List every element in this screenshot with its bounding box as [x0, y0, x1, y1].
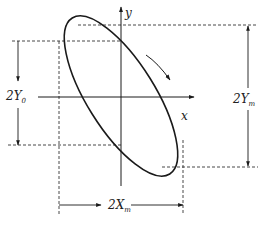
xm-label-prefix: 2X	[107, 198, 125, 212]
y0-label-sub: 0	[22, 97, 27, 105]
axes	[38, 7, 194, 186]
dimension-2ym: 2Ym	[232, 26, 256, 166]
ellipse-diagram: y x 2Y0 2Ym 2Xm	[0, 0, 262, 226]
ym-label-prefix: 2Y	[232, 92, 250, 106]
y0-label-prefix: 2Y	[5, 89, 23, 103]
xm-label-sub: m	[124, 206, 131, 214]
dimension-2xm: 2Xm	[59, 198, 183, 214]
ym-label-sub: m	[249, 100, 256, 108]
y-axis-label: y	[124, 6, 132, 20]
svg-text:2Y0: 2Y0	[5, 89, 27, 105]
x-axis-label: x	[181, 109, 188, 123]
dimension-2y0: 2Y0	[5, 41, 27, 145]
svg-text:2Ym: 2Ym	[232, 92, 256, 108]
svg-text:2Xm: 2Xm	[107, 198, 131, 214]
